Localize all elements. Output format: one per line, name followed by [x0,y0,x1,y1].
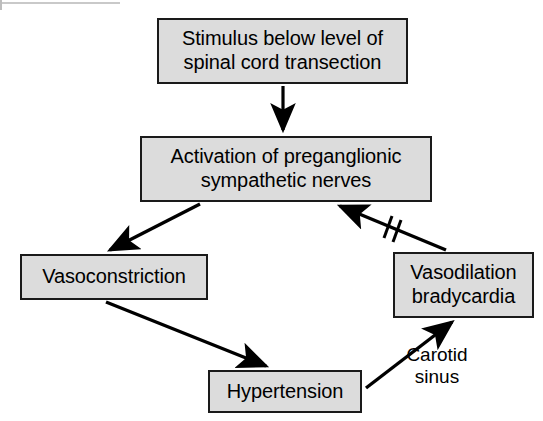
diagram-canvas: Stimulus below level of spinal cord tran… [0,0,543,421]
annotation-carotid-sinus: Carotid sinus [378,344,496,388]
node-stimulus-label: Stimulus below level of spinal cord tran… [182,27,383,74]
node-vasodilation-label: Vasodilation bradycardia [410,261,516,308]
node-vasodilation-bradycardia[interactable]: Vasodilation bradycardia [393,252,534,318]
edge-activation-to-vasoconstriction [110,204,200,250]
node-vasoconstriction[interactable]: Vasoconstriction [20,254,208,300]
node-activation-preganglionic-sympathetic-nerves[interactable]: Activation of preganglionic sympathetic … [140,136,432,202]
node-activation-label: Activation of preganglionic sympathetic … [171,145,402,192]
node-hypertension[interactable]: Hypertension [208,370,362,413]
edge-vasodilation-to-activation [340,206,446,250]
node-hypertension-label: Hypertension [227,380,344,404]
node-vasoconstriction-label: Vasoconstriction [42,265,186,289]
node-stimulus[interactable]: Stimulus below level of spinal cord tran… [157,18,408,84]
edge-vasoconstriction-to-hypertension [106,302,266,366]
